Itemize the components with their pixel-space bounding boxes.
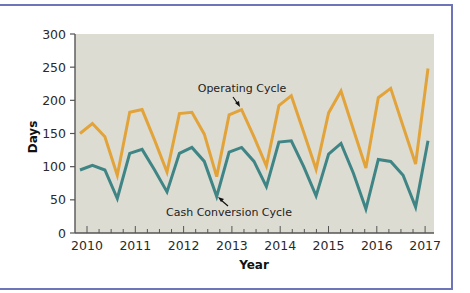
x-tick-label: 2016 xyxy=(361,238,393,253)
annotation-operating-cycle: Operating Cycle xyxy=(198,82,287,95)
x-tick-label: 2014 xyxy=(264,238,296,253)
x-axis-title: Year xyxy=(238,258,269,272)
x-tick-label: 2017 xyxy=(409,238,441,253)
y-tick-label: 300 xyxy=(42,27,66,42)
y-axis: 050100150200250300 xyxy=(42,27,75,241)
annotation-cash-conversion-cycle: Cash Conversion Cycle xyxy=(166,206,292,219)
y-tick-label: 150 xyxy=(42,126,66,141)
y-tick-label: 0 xyxy=(58,226,66,241)
y-tick-label: 250 xyxy=(42,60,66,75)
plot-area xyxy=(75,34,434,233)
x-tick-label: 2013 xyxy=(216,238,248,253)
x-tick-label: 2012 xyxy=(168,238,200,253)
y-tick-label: 200 xyxy=(42,93,66,108)
line-chart: 050100150200250300 201020112012201320142… xyxy=(0,0,470,293)
x-tick-label: 2015 xyxy=(313,238,345,253)
y-axis-title: Days xyxy=(26,121,40,154)
y-tick-label: 100 xyxy=(42,159,66,174)
x-tick-label: 2010 xyxy=(71,238,103,253)
y-tick-label: 50 xyxy=(50,192,66,207)
x-tick-label: 2011 xyxy=(119,238,151,253)
